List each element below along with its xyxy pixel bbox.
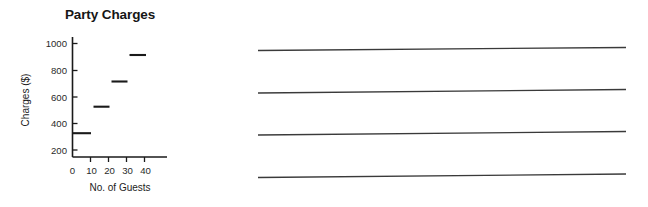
x-tick-label-0: 0 [70,165,75,176]
answer-line-3 [258,132,626,136]
answer-line-2 [258,90,626,94]
answer-lines-svg [230,0,648,207]
step-segments [73,55,146,133]
y-tick-label-1000: 1000 [46,38,67,49]
y-tick-label-800: 800 [51,65,67,76]
y-tick-label-200: 200 [51,145,67,156]
x-tick-label-30: 30 [122,165,133,176]
blank-answer-lines [230,0,648,207]
party-charges-figure: Party Charges 1000 800 600 400 200 0 10 [0,0,230,207]
step-chart-plot: 1000 800 600 400 200 0 10 20 30 40 No. o… [0,0,230,207]
y-tick-label-400: 400 [51,118,67,129]
x-tick-label-10: 10 [86,165,97,176]
y-axis-title: Charges ($) [20,74,31,127]
x-axis-title: No. of Guests [89,182,150,193]
x-tick-label-20: 20 [104,165,115,176]
answer-line-4 [258,174,626,178]
x-tick-label-40: 40 [140,165,151,176]
answer-line-1 [258,48,626,51]
y-tick-label-600: 600 [51,92,67,103]
